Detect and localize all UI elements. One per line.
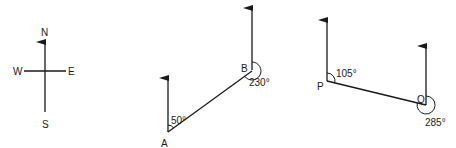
point-a-label: A [161,138,168,148]
bearing-p-label: 105° [336,68,357,79]
bearing-b-label: 230° [249,77,270,88]
point-b-label: B [241,63,248,74]
bearing-q-label: 285° [425,117,446,128]
compass-east-label: E [68,66,75,77]
compass-rose: N S E W [13,27,75,130]
figure-p-q: P Q 105° 285° [317,20,446,128]
point-p-label: P [317,81,324,92]
bearing-a-label: 50° [171,115,186,126]
compass-west-label: W [13,66,23,77]
figure-a-b: A B 50° 230° [161,8,270,148]
bearings-diagram: N S E W A B 50° 230° P Q 105° 285° [0,0,456,148]
point-q-label: Q [417,94,425,105]
compass-south-label: S [42,119,49,130]
line-p-q [327,81,426,105]
compass-north-label: N [41,27,48,38]
